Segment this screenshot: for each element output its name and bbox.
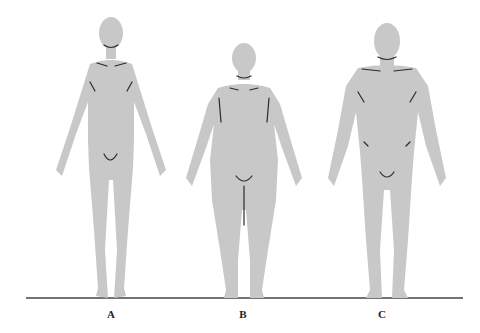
figure-c-label: C — [378, 308, 386, 320]
figure-b-silhouette — [186, 43, 302, 298]
figure-c-silhouette — [328, 23, 446, 298]
figure-a-label: A — [107, 308, 115, 320]
diagram-canvas — [0, 0, 480, 333]
figure-a-silhouette — [56, 17, 166, 298]
body-types-diagram: A B C — [0, 0, 480, 333]
figure-b-label: B — [239, 308, 246, 320]
